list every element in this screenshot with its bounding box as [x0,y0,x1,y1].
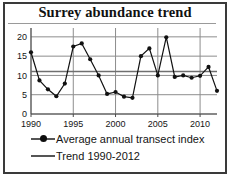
chart-image: Surrey abundance trend 05101520 19901995… [0,0,230,177]
legend-marker-line [30,150,56,162]
chart-legend: Average annual transect index Trend 1990… [30,130,220,164]
svg-text:10: 10 [17,71,27,81]
legend-marker-line-with-dot [30,133,56,145]
index-line-series [31,37,217,98]
svg-text:2005: 2005 [148,119,168,129]
y-tick-labels: 05101520 [17,32,27,119]
x-tick-labels: 19901995200020052010 [21,119,210,129]
svg-text:20: 20 [17,32,27,42]
svg-text:0: 0 [22,109,27,119]
data-point-markers [29,35,219,100]
axis-lines [31,28,217,117]
legend-label-trend: Trend 1990-2012 [56,150,140,162]
svg-text:2010: 2010 [190,119,210,129]
svg-text:2000: 2000 [106,119,126,129]
svg-text:1990: 1990 [21,119,41,129]
svg-text:5: 5 [22,90,27,100]
svg-text:1995: 1995 [63,119,83,129]
svg-text:15: 15 [17,51,27,61]
legend-item-index: Average annual transect index [30,130,220,147]
legend-label-index: Average annual transect index [56,133,204,145]
legend-item-trend: Trend 1990-2012 [30,147,220,164]
